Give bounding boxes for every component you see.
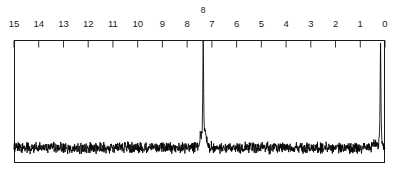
- x-axis-tick-label-4: 4: [283, 18, 288, 29]
- x-axis-tick-label-11: 11: [108, 18, 118, 29]
- x-axis-tick-label-2: 2: [333, 18, 338, 29]
- x-axis-tick-label-10: 10: [132, 18, 143, 29]
- x-axis-tick-label-13: 13: [58, 18, 69, 29]
- peak-annotations: 8: [201, 5, 206, 15]
- x-axis-tick-label-7: 7: [209, 18, 214, 29]
- x-axis-tick-label-8: 8: [184, 18, 189, 29]
- x-axis-tick-label-5: 5: [259, 18, 264, 29]
- x-axis-tick-label-3: 3: [308, 18, 313, 29]
- x-axis-ticks: [14, 41, 385, 48]
- nmr-spectrum-figure: 1514131211109876543210 8: [0, 0, 397, 175]
- x-axis-tick-label-6: 6: [234, 18, 239, 29]
- x-axis-tick-labels: 1514131211109876543210: [9, 18, 388, 29]
- x-axis-tick-label-1: 1: [358, 18, 363, 29]
- spectrum-canvas: 1514131211109876543210 8: [0, 0, 397, 175]
- x-axis-tick-label-9: 9: [160, 18, 165, 29]
- spectrum-trace: [14, 41, 385, 154]
- x-axis-tick-label-14: 14: [33, 18, 44, 29]
- peak-count-label: 8: [201, 5, 206, 15]
- x-axis-tick-label-0: 0: [382, 18, 387, 29]
- x-axis-tick-label-15: 15: [9, 18, 20, 29]
- x-axis-tick-label-12: 12: [83, 18, 94, 29]
